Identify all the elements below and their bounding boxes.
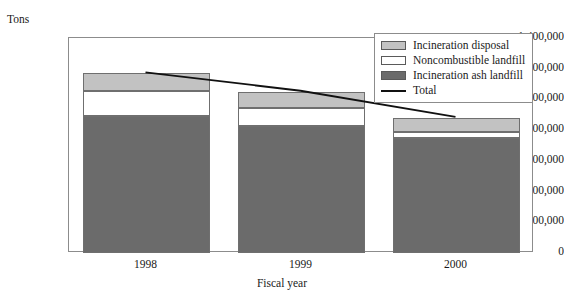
legend-item: Incineration ash landfill — [381, 68, 527, 83]
bar-segment — [238, 108, 365, 126]
legend-item-label: Noncombustible landfill — [413, 55, 525, 67]
bar-segment — [83, 73, 210, 91]
bar-group — [393, 118, 520, 253]
x-tick-label: 2000 — [444, 258, 467, 270]
legend-color-swatch — [381, 41, 406, 50]
legend-item-label: Incineration ash landfill — [413, 70, 523, 82]
legend-line-marker — [381, 86, 406, 95]
x-axis-title: Fiscal year — [0, 277, 564, 289]
bar-segment — [238, 92, 365, 108]
bar-segment — [83, 91, 210, 116]
legend-item: Noncombustible landfill — [381, 53, 527, 68]
bar-segment — [83, 116, 210, 253]
bar-segment — [393, 132, 520, 138]
bar-group — [83, 73, 210, 253]
bar-group — [238, 92, 365, 253]
y-axis-unit-label: Tons — [7, 13, 29, 25]
legend-item-label: Incineration disposal — [413, 40, 509, 52]
legend-color-swatch — [381, 71, 406, 80]
bar-segment — [393, 118, 520, 132]
chart-legend: Incineration disposalNoncombustible land… — [374, 33, 533, 103]
legend-rows: Incineration disposalNoncombustible land… — [381, 38, 527, 98]
legend-item: Incineration disposal — [381, 38, 527, 53]
bar-segment — [393, 138, 520, 253]
bar-segment — [238, 126, 365, 253]
x-tick-label: 1999 — [289, 258, 312, 270]
x-tick-label: 1998 — [134, 258, 157, 270]
stacked-bar-chart: Tons 0200,000400,000600,000800,0001,000,… — [0, 0, 564, 300]
legend-item-label: Total — [413, 85, 436, 97]
legend-item: Total — [381, 83, 527, 98]
legend-color-swatch — [381, 56, 406, 65]
